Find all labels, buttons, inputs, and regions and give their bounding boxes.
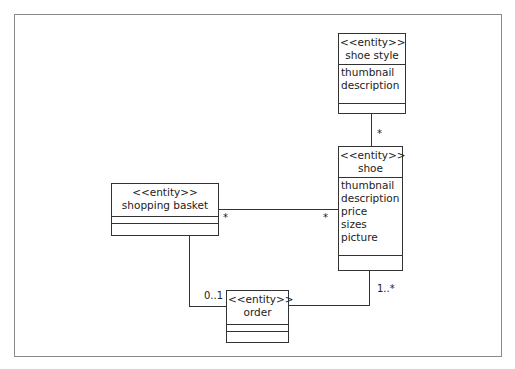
- entity-header: <<entity>> shoe style: [339, 34, 405, 65]
- entity-header: <<entity>> shoe: [339, 147, 402, 178]
- stereotype-label: <<entity>>: [113, 186, 217, 199]
- entity-name: shopping basket: [113, 199, 217, 212]
- style-shoe-association: [371, 113, 372, 146]
- stereotype-label: <<entity>>: [340, 36, 404, 49]
- attribute: thumbnail: [341, 179, 400, 192]
- multiplicity-shoe-order: 1..*: [377, 283, 395, 294]
- basket-order-horizontal: [189, 306, 226, 307]
- stereotype-label: <<entity>>: [340, 149, 401, 162]
- entity-name: order: [228, 306, 287, 319]
- attribute: picture: [341, 231, 400, 244]
- entity-shoe-style[interactable]: <<entity>> shoe style thumbnail descript…: [338, 33, 406, 114]
- attribute-compartment: thumbnail description: [339, 65, 405, 104]
- attribute: thumbnail: [341, 66, 403, 79]
- multiplicity-style-shoe: *: [377, 128, 382, 139]
- entity-name: shoe style: [340, 49, 404, 62]
- entity-header: <<entity>> order: [227, 291, 288, 325]
- attribute-compartment: [227, 325, 288, 332]
- entity-shoe[interactable]: <<entity>> shoe thumbnail description pr…: [338, 146, 403, 271]
- basket-shoe-association: [218, 209, 338, 210]
- shoe-order-horizontal: [288, 305, 370, 306]
- multiplicity-basket-order: 0..1: [204, 290, 223, 301]
- stereotype-label: <<entity>>: [228, 293, 287, 306]
- basket-order-vertical: [189, 235, 190, 306]
- attribute: price: [341, 205, 400, 218]
- multiplicity-shoe-basket-side: *: [323, 212, 328, 223]
- multiplicity-basket-side: *: [223, 212, 228, 223]
- attribute-compartment: thumbnail description price sizes pictur…: [339, 178, 402, 256]
- attribute: sizes: [341, 218, 400, 231]
- attribute: description: [341, 79, 403, 92]
- attribute: description: [341, 192, 400, 205]
- entity-shopping-basket[interactable]: <<entity>> shopping basket: [111, 183, 219, 236]
- entity-order[interactable]: <<entity>> order: [226, 290, 289, 343]
- entity-name: shoe: [340, 162, 401, 175]
- entity-header: <<entity>> shopping basket: [112, 184, 218, 217]
- shoe-order-vertical: [369, 270, 370, 306]
- attribute-compartment: [112, 217, 218, 224]
